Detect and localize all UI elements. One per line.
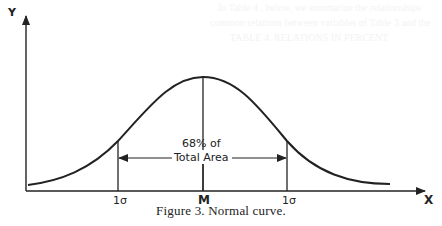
normal-curve-diagram xyxy=(0,0,442,226)
annotation-percent: 68% of xyxy=(182,137,221,150)
y-axis-label: Y xyxy=(8,6,16,19)
annotation-total-area: Total Area xyxy=(174,151,229,164)
normal-curve xyxy=(28,77,390,185)
figure-caption: Figure 3. Normal curve. xyxy=(0,203,442,219)
